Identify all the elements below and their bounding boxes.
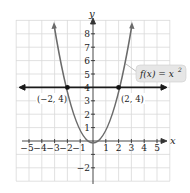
svg-text:1: 1 <box>103 143 109 153</box>
point-label-right: (2, 4) <box>121 94 144 104</box>
svg-text:2: 2 <box>84 110 90 120</box>
parabola-arrow-left-icon <box>52 22 57 29</box>
y-axis-label: y <box>88 8 95 19</box>
svg-text:5: 5 <box>154 143 160 153</box>
arrow-left-icon <box>19 85 25 91</box>
point-neg2-4 <box>65 85 70 90</box>
callout-text: f(x) = x <box>139 69 174 79</box>
svg-text:−5: −5 <box>20 143 34 153</box>
svg-text:−2: −2 <box>59 143 72 153</box>
point-label-left: (−2, 4) <box>37 94 67 104</box>
svg-text:3: 3 <box>129 143 135 153</box>
svg-text:8: 8 <box>84 29 90 39</box>
graph: x y −5 −4 −3 −2 −1 1 2 3 4 5 −2 1 2 3 4 … <box>0 0 190 193</box>
svg-text:2: 2 <box>116 143 122 153</box>
x-axis-arrow-icon <box>161 139 167 144</box>
svg-text:4: 4 <box>141 143 147 153</box>
svg-text:5: 5 <box>84 70 90 80</box>
point-2-4 <box>116 85 121 90</box>
svg-text:6: 6 <box>84 56 90 66</box>
svg-text:−3: −3 <box>46 143 60 153</box>
function-callout: f(x) = x 2 <box>126 64 186 82</box>
svg-text:7: 7 <box>84 43 90 53</box>
callout-exponent: 2 <box>177 66 182 73</box>
svg-text:−2: −2 <box>77 163 90 173</box>
x-axis-label: x <box>170 135 176 146</box>
arrow-right-icon <box>161 85 167 91</box>
x-tick-labels: −5 −4 −3 −2 −1 1 2 3 4 5 <box>20 143 160 153</box>
parabola-arrow-right-icon <box>129 22 134 29</box>
svg-text:−1: −1 <box>72 143 85 153</box>
svg-text:3: 3 <box>84 96 90 106</box>
svg-text:1: 1 <box>84 123 90 133</box>
svg-text:−4: −4 <box>33 143 47 153</box>
